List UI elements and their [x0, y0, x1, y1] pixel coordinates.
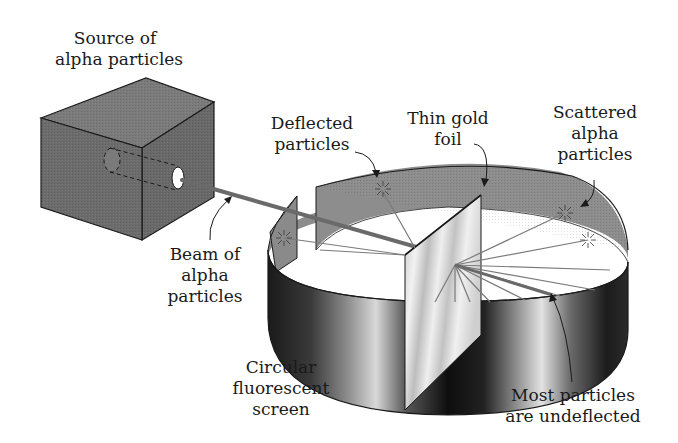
label-deflected: Deflected particles: [267, 113, 357, 155]
label-source: Source of alpha particles: [55, 28, 175, 70]
label-undeflected: Most particles are undeflected: [498, 385, 648, 427]
alpha-source-box: [41, 78, 214, 240]
label-scattered: Scattered alpha particles: [550, 102, 640, 165]
source-aperture: [172, 167, 184, 189]
deflected-leader-arrow: [355, 152, 376, 172]
rutherford-diagram: Source of alpha particles Deflected part…: [0, 0, 678, 443]
label-gold-foil: Thin gold foil: [405, 108, 491, 150]
beam-leader-arrow: [210, 200, 228, 240]
label-beam: Beam of alpha particles: [165, 244, 245, 307]
label-screen: Circular fluorescent screen: [226, 357, 336, 420]
